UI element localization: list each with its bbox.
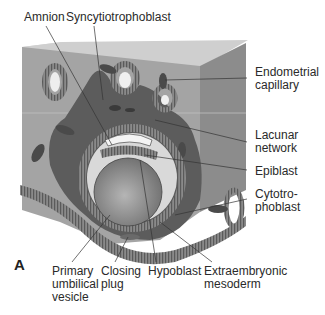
- label-text: network: [255, 142, 298, 155]
- lacuna: [109, 105, 121, 111]
- label-text: Epiblast: [255, 165, 298, 178]
- endometrium-side: [200, 43, 246, 212]
- panel-label: A: [14, 256, 25, 273]
- primary-umbilical-vesicle: [94, 158, 162, 226]
- label-text: phoblast: [255, 201, 300, 214]
- label-primary-umbilical-vesicle: Primary umbilical vesicle: [52, 265, 99, 304]
- label-text: mesoderm: [204, 278, 287, 291]
- label-text: Amnion: [24, 11, 65, 24]
- label-extraembryonic-mesoderm: Extraembryonic mesoderm: [204, 265, 287, 291]
- label-text: capillary: [255, 79, 319, 92]
- label-cytotrophoblast: Cytotro- phoblast: [255, 188, 300, 214]
- endometrial-capillary: [159, 73, 167, 89]
- label-text: Syncytiotrophoblast: [66, 11, 171, 24]
- label-text: Hypoblast: [148, 265, 201, 278]
- label-epiblast: Epiblast: [255, 165, 298, 178]
- label-amnion: Amnion: [24, 11, 65, 24]
- label-text: plug: [101, 278, 141, 291]
- label-text: vesicle: [52, 291, 99, 304]
- label-syncytiotrophoblast: Syncytiotrophoblast: [66, 11, 171, 24]
- label-endometrial-capillary: Endometrial capillary: [255, 66, 319, 92]
- label-lacunar-network: Lacunar network: [255, 129, 298, 155]
- label-closing-plug: Closing plug: [101, 265, 141, 291]
- closing-plug: [120, 234, 140, 240]
- label-hypoblast: Hypoblast: [148, 265, 201, 278]
